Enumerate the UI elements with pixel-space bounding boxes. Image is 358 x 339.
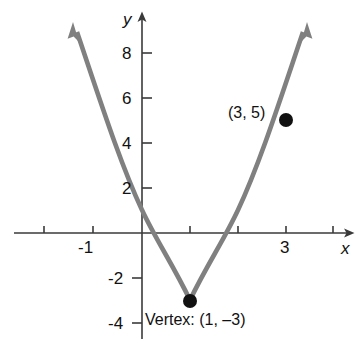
y-tick-label--2: -2 [108,270,123,287]
y-tick-label-4: 4 [122,135,131,152]
x-axis-ticks [44,226,333,233]
vertex-label: Vertex: (1, –3) [145,312,246,328]
x-tick-label--1: -1 [78,239,93,256]
y-tick-label--4: -4 [108,315,123,332]
y-tick-label-2: 2 [122,180,131,197]
y-tick-label-6: 6 [122,90,131,107]
graph-canvas [0,0,358,339]
vertex-marker [183,294,197,308]
parabola-curve [77,32,303,300]
x-axis-label: x [341,240,350,257]
y-axis-label: y [123,11,132,28]
parabola-figure: y x -1 3 8 6 4 2 -2 -4 (3, 5) Vertex: (1… [0,0,358,339]
point-3-5-label: (3, 5) [228,105,265,121]
x-tick-label-3: 3 [280,239,289,256]
y-tick-label-8: 8 [122,45,131,62]
point-3-5-marker [279,113,293,127]
